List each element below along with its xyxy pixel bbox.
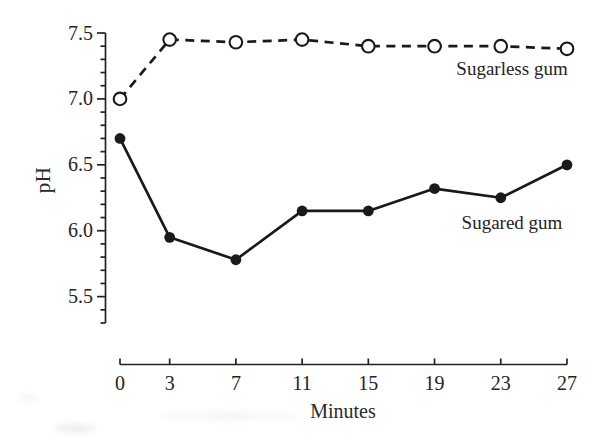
- data-point-open-circle: [428, 40, 441, 53]
- scan-artifact-smudge: [20, 395, 38, 401]
- x-axis-tick-label: 3: [165, 372, 175, 394]
- data-point-open-circle: [494, 40, 507, 53]
- scan-artifact-smudge: [160, 413, 300, 419]
- y-axis-tick-label: 7.0: [68, 87, 93, 109]
- data-point-filled-circle: [429, 183, 440, 194]
- data-point-open-circle: [561, 43, 574, 56]
- data-point-filled-circle: [297, 206, 308, 217]
- y-axis-title: pH: [31, 167, 56, 194]
- data-point-filled-circle: [115, 133, 126, 144]
- scan-artifact-smudge: [55, 424, 95, 433]
- x-axis-tick-label: 15: [358, 372, 378, 394]
- ph-line-chart-figure: 5.56.06.57.07.50371115192327 pH Minutes …: [0, 0, 606, 447]
- y-axis-tick-label: 6.5: [68, 153, 93, 175]
- data-point-filled-circle: [363, 206, 374, 217]
- data-point-open-circle: [163, 33, 176, 46]
- data-point-filled-circle: [495, 192, 506, 203]
- x-axis-tick-label: 19: [425, 372, 445, 394]
- series-label-sugarless-gum: Sugarless gum: [456, 58, 567, 80]
- data-point-filled-circle: [562, 159, 573, 170]
- x-axis-tick-label: 23: [491, 372, 511, 394]
- y-axis-tick-label: 7.5: [68, 22, 93, 44]
- series-label-sugared-gum: Sugared gum: [462, 212, 563, 234]
- x-axis-tick-label: 11: [292, 372, 311, 394]
- data-point-filled-circle: [164, 232, 175, 243]
- data-point-open-circle: [114, 93, 127, 106]
- x-axis-tick-label: 7: [231, 372, 241, 394]
- data-point-open-circle: [230, 36, 243, 49]
- data-point-open-circle: [362, 40, 375, 53]
- data-point-filled-circle: [230, 254, 241, 265]
- x-axis-title: Minutes: [310, 400, 376, 423]
- data-point-open-circle: [296, 33, 309, 46]
- y-axis-tick-label: 5.5: [68, 285, 93, 307]
- y-axis-tick-label: 6.0: [68, 219, 93, 241]
- x-axis-tick-label: 0: [115, 372, 125, 394]
- x-axis-tick-label: 27: [557, 372, 577, 394]
